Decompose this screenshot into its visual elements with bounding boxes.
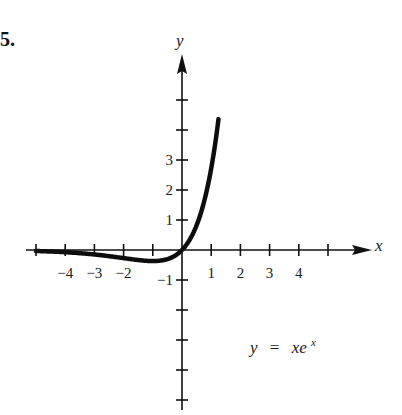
- y-tick-label: −1: [157, 272, 173, 288]
- x-tick-label: 3: [266, 265, 274, 281]
- axes: [26, 54, 372, 410]
- equation-label: y = xe x: [248, 336, 316, 357]
- y-tick-label: 3: [166, 152, 174, 168]
- eq-rhs: xe: [291, 338, 308, 357]
- x-tick-label: −2: [116, 265, 132, 281]
- y-tick-label: 2: [166, 182, 174, 198]
- eq-equals: =: [270, 338, 280, 357]
- eq-y: y: [248, 338, 258, 357]
- y-axis-arrow-icon: [177, 54, 187, 74]
- y-axis-label: y: [174, 31, 184, 50]
- x-axis-arrow-icon: [352, 245, 372, 255]
- graph: −4−3−21234321−1 y x y = xe x: [0, 0, 402, 415]
- x-tick-label: 4: [295, 265, 303, 281]
- x-tick-label: 1: [207, 265, 215, 281]
- eq-exponent: x: [310, 336, 316, 348]
- x-axis-label: x: [374, 236, 383, 255]
- x-tick-label: −4: [57, 265, 73, 281]
- x-tick-label: −3: [86, 265, 102, 281]
- y-tick-label: 1: [166, 212, 174, 228]
- x-tick-label: 2: [237, 265, 245, 281]
- function-curve: [36, 119, 219, 261]
